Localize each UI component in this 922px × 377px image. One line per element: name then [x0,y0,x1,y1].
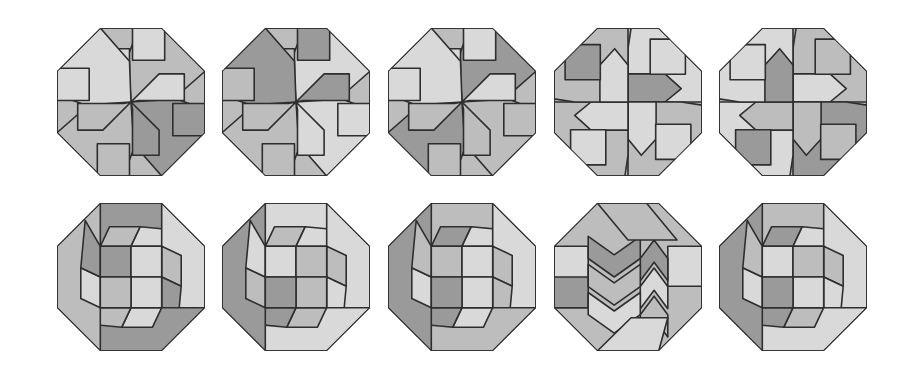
octagon-dissection-figure [0,0,922,377]
center-square [762,246,793,277]
edge-square [298,28,330,60]
center-square [100,277,131,308]
center-square [762,277,793,308]
edge-square [464,28,496,60]
center-square [431,277,462,308]
octagon-3 [388,28,536,176]
octagon-6 [57,203,205,351]
octagon-8 [388,203,536,351]
center-square [793,277,824,308]
octagon-2 [222,28,370,176]
corner-square [565,45,600,80]
edge-square [133,28,165,60]
edge-square [222,68,254,100]
left-square-dark [554,277,588,308]
corner-square [730,45,765,80]
center-square [131,246,162,277]
edge-square [428,144,460,176]
center-square [265,246,296,277]
center-square [793,246,824,277]
corner-square [571,130,606,165]
center-square [265,277,296,308]
octagon-7 [222,203,370,351]
corner-square [736,130,771,165]
corner-square [821,124,856,159]
center-square [462,277,493,308]
edge-square [173,104,205,136]
octagon-4 [554,28,702,176]
edge-square [57,68,89,100]
octagon-5 [719,28,867,176]
corner-square [650,39,685,74]
edge-square [338,104,370,136]
octagon-1 [57,28,205,176]
center-square [431,246,462,277]
center-square [296,246,327,277]
center-square [462,246,493,277]
edge-square [388,68,420,100]
edge-square [97,144,129,176]
edge-square [262,144,294,176]
right-square [668,246,702,286]
center-square [131,277,162,308]
octagon-10 [719,203,867,351]
center-square [296,277,327,308]
center-square [100,246,131,277]
octagon-9 [554,203,702,351]
corner-square [815,39,850,74]
corner-square [656,124,691,159]
edge-square [504,104,536,136]
